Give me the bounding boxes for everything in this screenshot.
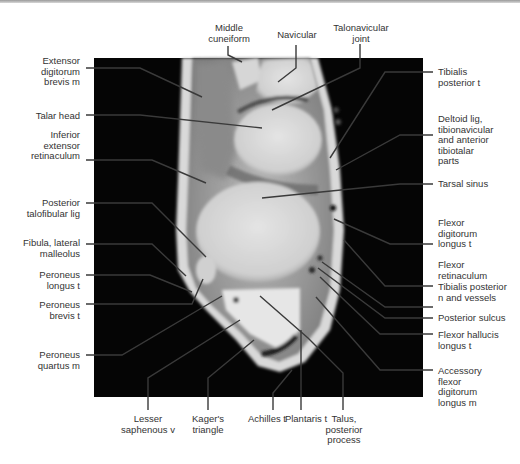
label-inferior-extensor-retinaculum: Inferior extensor retinaculum bbox=[10, 130, 80, 162]
label-deltoid-lig: Deltoid lig, tibionavicular and anterior… bbox=[438, 114, 520, 167]
label-fibula-lateral-malleolus: Fibula, lateral malleolus bbox=[0, 238, 80, 259]
label-navicular: Navicular bbox=[270, 30, 324, 41]
label-tarsal-sinus: Tarsal sinus bbox=[438, 179, 518, 190]
label-accessory-fdl: Accessory flexor digitorum longus m bbox=[438, 366, 518, 408]
label-lesser-saphenous: Lesser saphenous v bbox=[113, 414, 183, 435]
label-tibialis-posterior-t: Tibialis posterior t bbox=[438, 67, 518, 88]
label-peroneus-longus: Peroneus longus t bbox=[10, 270, 80, 291]
label-talonavicular-joint: Talonavicular joint bbox=[329, 23, 393, 44]
label-flexor-digitorum-longus: Flexor digitorum longus t bbox=[438, 218, 518, 250]
label-middle-cuneiform: Middle cuneiform bbox=[203, 23, 255, 44]
label-talar-head: Talar head bbox=[10, 111, 80, 122]
label-peroneus-quartus: Peroneus quartus m bbox=[10, 350, 80, 371]
label-posterior-talofibular-lig: Posterior talofibular lig bbox=[0, 198, 80, 219]
label-peroneus-brevis: Peroneus brevis t bbox=[10, 300, 80, 321]
label-talus-posterior-process: Talus, posterior process bbox=[316, 414, 372, 446]
label-extensor-digitorum-brevis: Extensor digitorum brevis m bbox=[10, 56, 80, 88]
label-flexor-hallucis-longus: Flexor hallucis longus t bbox=[438, 330, 520, 351]
label-kagers-triangle: Kager's triangle bbox=[183, 414, 233, 435]
label-tibialis-posterior-n: Tibialis posterior n and vessels bbox=[438, 282, 520, 303]
label-posterior-sulcus: Posterior sulcus bbox=[438, 313, 520, 324]
anatomy-figure: Middle cuneiform Navicular Talonavicular… bbox=[0, 0, 520, 464]
label-flexor-retinaculum: Flexor retinaculum bbox=[438, 260, 518, 281]
